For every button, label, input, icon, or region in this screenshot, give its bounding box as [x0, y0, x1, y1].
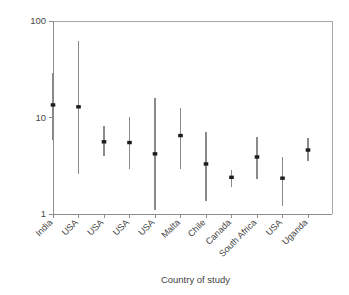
data-point-group: [255, 137, 260, 179]
estimate-marker: [255, 155, 260, 158]
data-point-group: [153, 98, 158, 210]
y-tick-label: 100: [30, 15, 46, 26]
data-point-group: [204, 132, 209, 201]
data-point-group: [76, 41, 81, 174]
estimate-marker: [229, 176, 234, 179]
estimate-marker: [153, 152, 158, 155]
estimate-marker: [204, 162, 209, 165]
estimate-marker: [280, 176, 285, 179]
x-axis-title: Country of study: [161, 274, 230, 285]
estimate-marker: [178, 134, 183, 137]
x-tick-label-usa-4: USA: [136, 217, 156, 237]
data-point-group: [102, 126, 107, 156]
data-point-group: [280, 157, 285, 206]
data-point-group: [51, 73, 56, 140]
chart-figure: 110100IndiaUSAUSAUSAUSAMaltaChileCanadaS…: [0, 0, 349, 295]
forest-plot-svg: 110100IndiaUSAUSAUSAUSAMaltaChileCanadaS…: [0, 0, 349, 295]
x-tick-label-usa-3: USA: [111, 217, 131, 237]
data-point-group: [127, 117, 132, 170]
estimate-marker: [306, 148, 311, 151]
x-tick-label-usa-1: USA: [60, 217, 80, 237]
x-tick-label-uganda-10: Uganda: [280, 217, 309, 246]
x-tick-label-chile-6: Chile: [186, 217, 208, 239]
x-tick-label-usa-2: USA: [85, 217, 105, 237]
x-tick-label-usa-9: USA: [264, 217, 284, 237]
estimate-marker: [127, 141, 132, 144]
data-point-group: [306, 138, 311, 162]
y-tick-label: 10: [35, 112, 46, 123]
plot-frame: [53, 21, 332, 214]
data-point-group: [229, 170, 234, 187]
x-tick-label-malta-5: Malta: [159, 217, 182, 240]
plot-axes: [53, 21, 332, 214]
x-tick-label-india-0: India: [34, 217, 55, 238]
estimate-marker: [102, 140, 107, 143]
estimate-marker: [76, 105, 81, 108]
estimate-marker: [51, 103, 56, 106]
data-point-group: [178, 108, 183, 169]
y-tick-label: 1: [41, 208, 46, 219]
